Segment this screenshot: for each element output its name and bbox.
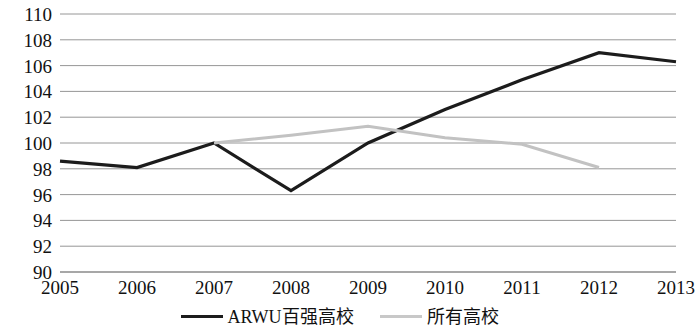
- x-tick-label: 2012: [580, 278, 618, 297]
- chart-legend: ARWU百强高校 所有高校: [0, 303, 679, 330]
- x-tick-label: 2006: [118, 278, 156, 297]
- legend-item-all: 所有高校: [380, 308, 499, 326]
- x-tick-label: 2007: [195, 278, 233, 297]
- series-line: [214, 126, 599, 167]
- x-tick-label: 2005: [41, 278, 79, 297]
- series-line: [60, 53, 676, 191]
- legend-item-arwu: ARWU百强高校: [181, 308, 354, 326]
- legend-label-arwu: ARWU百强高校: [228, 308, 354, 326]
- x-tick-label: 2008: [272, 278, 310, 297]
- series-layer: [60, 53, 676, 191]
- legend-swatch-arwu: [181, 315, 223, 318]
- x-tick-label: 2013: [657, 278, 695, 297]
- x-tick-label: 2010: [426, 278, 464, 297]
- legend-swatch-all: [380, 315, 422, 318]
- legend-label-all: 所有高校: [427, 308, 499, 326]
- x-tick-label: 2009: [349, 278, 387, 297]
- x-tick-label: 2011: [503, 278, 540, 297]
